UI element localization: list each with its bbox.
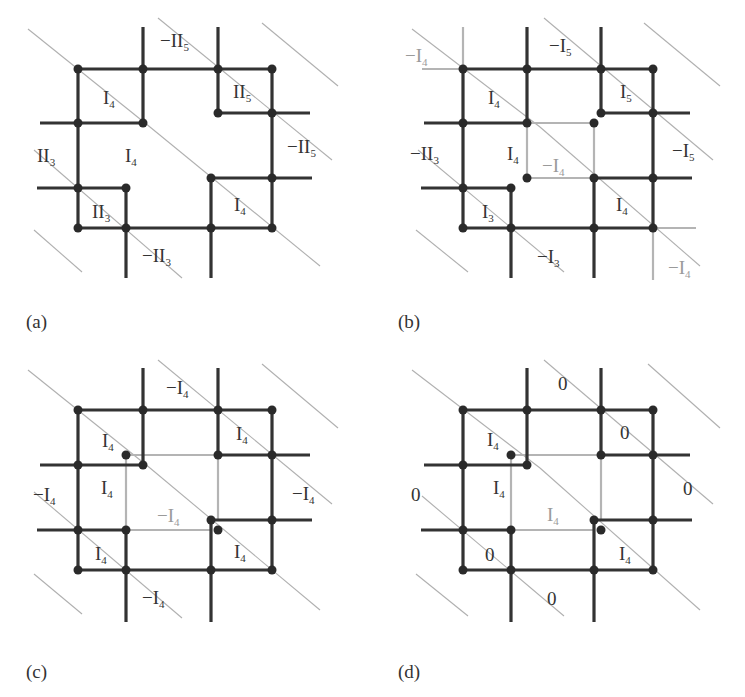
region-label: I4 — [125, 145, 137, 168]
region-label: I4 — [488, 87, 500, 110]
region-label: 0 — [683, 478, 693, 499]
region-label: II3 — [37, 145, 56, 168]
region-label: 0 — [558, 373, 568, 394]
region-label: −II5 — [287, 136, 316, 159]
region-label: −I4 — [33, 484, 56, 507]
region-label: II3 — [92, 201, 111, 224]
region-label: I3 — [482, 201, 494, 224]
region-label: −II3 — [410, 143, 439, 166]
region-label: −II3 — [142, 245, 171, 268]
region-label: −I4 — [542, 155, 565, 178]
region-label: I4 — [101, 477, 113, 500]
region-label: I4 — [234, 541, 246, 564]
region-label: II5 — [233, 81, 252, 104]
region-label: −I3 — [537, 246, 560, 269]
region-label: −I4 — [405, 45, 428, 68]
region-label: I4 — [102, 430, 114, 453]
region-label: −II5 — [160, 30, 189, 53]
region-label: I4 — [547, 504, 559, 527]
region-label: 0 — [620, 422, 630, 443]
region-label: −I4 — [668, 257, 691, 280]
region-label: −I4 — [142, 587, 165, 610]
panel-caption: (b) — [398, 311, 420, 333]
region-label: I4 — [616, 194, 628, 217]
region-label: 0 — [547, 588, 557, 609]
figure-canvas: −II5 I4 II5 II3 I4 −II5 II3 I4 −II3 (a) — [0, 0, 745, 697]
region-label: I4 — [234, 194, 246, 217]
panel-b: −I4 −I5 I4 I5 −II3 I4 −I4 −I5 I3 I4 −I3 … — [398, 18, 720, 333]
panel-caption: (d) — [398, 661, 420, 683]
region-label: I5 — [620, 81, 632, 104]
panel-c: −I4 I4 I4 I4 −I4 −I4 −I4 I4 I4 −I4 (c) — [26, 360, 338, 683]
region-label: I4 — [487, 429, 499, 452]
panel-a: −II5 I4 II5 II3 I4 −II5 II3 I4 −II3 (a) — [26, 18, 338, 333]
diagonal-guides — [412, 360, 720, 616]
region-label: −I4 — [166, 377, 189, 400]
region-label: 0 — [485, 544, 495, 565]
panel-caption: (c) — [26, 661, 47, 683]
region-label: I4 — [507, 143, 519, 166]
region-label: I4 — [236, 423, 248, 446]
region-label: I4 — [619, 543, 631, 566]
region-label: I4 — [95, 543, 107, 566]
region-label: I4 — [493, 477, 505, 500]
panel-caption: (a) — [26, 311, 47, 333]
panel-d: 0 I4 0 I4 0 0 I4 0 I4 0 (d) — [398, 360, 720, 683]
region-label: 0 — [411, 484, 421, 505]
region-label: −I5 — [672, 140, 695, 163]
region-label: −I4 — [157, 505, 180, 528]
graph-edges — [421, 27, 692, 278]
region-label: I4 — [103, 87, 115, 110]
